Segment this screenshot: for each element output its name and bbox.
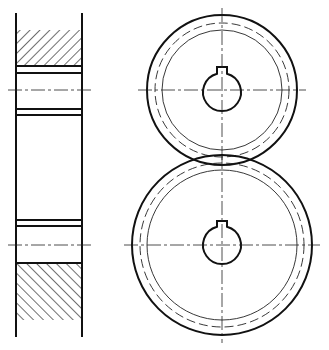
lower-hatched-rim [16, 263, 82, 320]
side-section-view [8, 13, 92, 337]
upper-hatched-rim [16, 30, 82, 66]
upper-gear-view [138, 8, 306, 165]
lower-gear-view [124, 155, 320, 343]
gear-assembly-drawing [0, 0, 329, 350]
